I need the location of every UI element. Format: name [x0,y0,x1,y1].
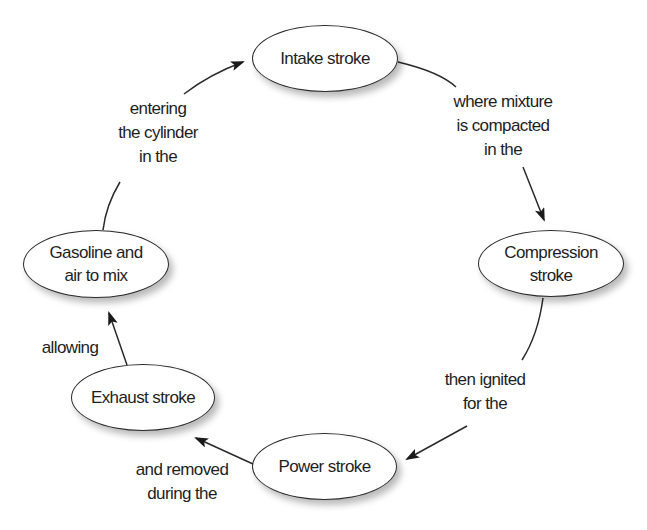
edge-compression-power-arrow [407,426,467,459]
edge-compression-power-line [522,298,543,360]
edge-label-exhaust-gasoline: allowing [30,336,110,360]
edge-label-power-exhaust: and removed during the [122,458,242,506]
node-exhaust-stroke: Exhaust stroke [71,364,215,431]
edge-intake-compression-arrow [523,167,544,220]
node-intake-stroke: Intake stroke [252,25,398,92]
edge-label-compression-power: then ignited for the [430,368,540,416]
node-power-stroke: Power stroke [252,433,397,500]
engine-cycle-diagram: Intake stroke Compression stroke Power s… [0,0,647,530]
edge-gasoline-intake-line [103,182,120,230]
node-gasoline-air-mix: Gasoline and air to mix [23,230,169,298]
edge-gasoline-intake-arrow [184,62,243,94]
edge-label-intake-compression: where mixture is compacted in the [428,90,578,162]
edge-intake-compression-line [398,62,456,87]
edge-label-gasoline-intake: entering the cylinder in the [100,97,216,169]
edge-exhaust-gasoline-arrow [109,313,127,365]
node-compression-stroke: Compression stroke [478,230,624,297]
